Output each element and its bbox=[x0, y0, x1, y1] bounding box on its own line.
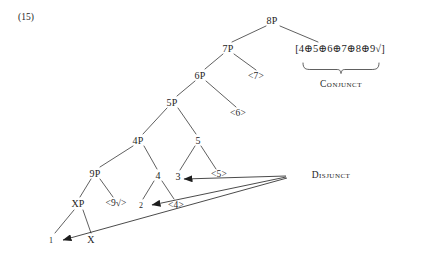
tree-node-4P: 4P bbox=[133, 136, 144, 146]
tree-branch-lines bbox=[55, 26, 318, 233]
tree-node-8P: 8P bbox=[267, 16, 278, 26]
tree-node-trace-4: <4> bbox=[168, 201, 184, 211]
tree-node-7P: 7P bbox=[223, 44, 234, 54]
tree-node-trace-5: <5> bbox=[211, 170, 227, 180]
tree-edges-layer bbox=[0, 0, 428, 261]
tree-node-trace-7: <7> bbox=[248, 72, 264, 82]
tree-node-5P: 5P bbox=[167, 98, 178, 108]
conjunct-brace bbox=[303, 63, 379, 74]
tree-node-3: 3 bbox=[175, 172, 180, 182]
tree-node-9P: 9P bbox=[90, 169, 101, 179]
tree-node-2: 2 bbox=[139, 202, 143, 210]
example-number: (15) bbox=[18, 12, 34, 22]
tree-node-trace-6: <6> bbox=[230, 109, 246, 119]
tree-node-XP: XP bbox=[72, 199, 85, 209]
tree-node-X: X bbox=[87, 235, 94, 245]
tree-node-1: 1 bbox=[49, 237, 53, 245]
tree-node-6P: 6P bbox=[195, 71, 206, 81]
figure-canvas: (15) bbox=[0, 0, 428, 261]
tree-node-formula: [4⊕5⊕6⊕7⊕8⊕9√] bbox=[295, 44, 385, 55]
disjunct-label: Disjunct bbox=[312, 171, 350, 181]
tree-node-5: 5 bbox=[195, 136, 200, 146]
conjunct-label: Conjunct bbox=[320, 80, 362, 90]
tree-node-4: 4 bbox=[155, 171, 160, 181]
tree-node-trace-9: <9√> bbox=[105, 199, 126, 209]
